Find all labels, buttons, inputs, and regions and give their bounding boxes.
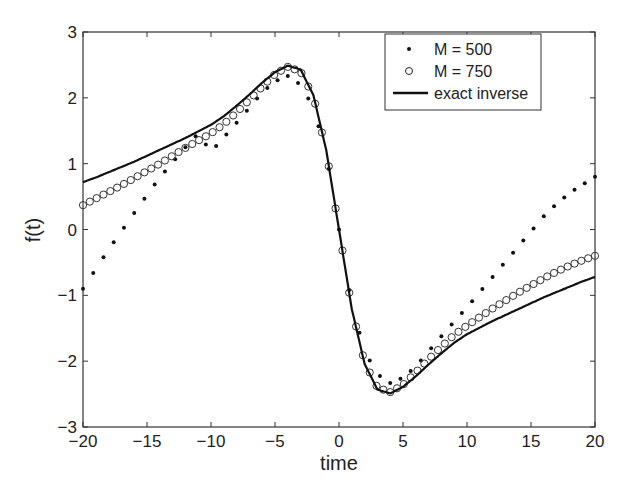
legend: M = 500 M = 750 exact inverse bbox=[385, 34, 541, 110]
legend-dot-icon bbox=[407, 47, 411, 51]
svg-text:15: 15 bbox=[522, 432, 541, 451]
svg-text:M = 750: M = 750 bbox=[434, 63, 492, 80]
chart: −20−15−10−505101520−3−2−10123 time f(t) … bbox=[0, 0, 643, 493]
svg-text:−3: −3 bbox=[58, 418, 77, 437]
svg-text:M = 500: M = 500 bbox=[434, 41, 492, 58]
svg-text:5: 5 bbox=[398, 432, 407, 451]
svg-text:20: 20 bbox=[586, 432, 605, 451]
svg-text:2: 2 bbox=[68, 89, 77, 108]
svg-text:3: 3 bbox=[68, 23, 77, 42]
x-axis-label: time bbox=[320, 452, 358, 474]
svg-text:−1: −1 bbox=[58, 286, 77, 305]
svg-text:−15: −15 bbox=[133, 432, 162, 451]
svg-text:−2: −2 bbox=[58, 352, 77, 371]
svg-text:0: 0 bbox=[68, 221, 77, 240]
svg-text:0: 0 bbox=[334, 432, 343, 451]
svg-text:1: 1 bbox=[68, 155, 77, 174]
y-axis-label: f(t) bbox=[22, 218, 44, 242]
svg-text:exact inverse: exact inverse bbox=[434, 85, 528, 102]
svg-text:−5: −5 bbox=[265, 432, 284, 451]
svg-text:10: 10 bbox=[458, 432, 477, 451]
svg-text:−10: −10 bbox=[197, 432, 226, 451]
